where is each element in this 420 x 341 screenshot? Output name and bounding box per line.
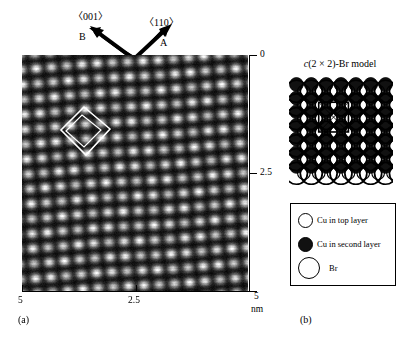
stm-lattice-canvas (22, 55, 248, 291)
figure-root: 〈001〉 〈110〉 B A 0 2.5 (0, 0, 420, 341)
br-circle-icon (298, 257, 320, 279)
panel-b-model: c(2 × 2)-Br model Cu in top layer Cu in … (260, 0, 420, 341)
x-tick-label-2-5: 2.5 (128, 296, 140, 306)
legend-label-cu-second-layer: Cu in second layer (317, 240, 381, 249)
legend-item-br: Br (291, 255, 397, 281)
x-tick-5 (22, 285, 23, 292)
y-tick-2-5 (250, 173, 257, 174)
y-tick-label-0: 5 (254, 292, 259, 302)
panel-b-caption: (b) (300, 315, 312, 325)
legend-item-cu-second-layer: Cu in second layer (291, 231, 397, 257)
legend-item-cu-top-layer: Cu in top layer (291, 207, 397, 233)
stm-topograph (22, 55, 248, 291)
y-tick-5 (250, 55, 257, 56)
cu-second-layer-circle-icon (298, 237, 313, 252)
x-tick-label-5: 5 (18, 296, 23, 306)
panel-a-stm-image: 〈001〉 〈110〉 B A 0 2.5 (0, 0, 260, 341)
c2x2-br-structure-diagram (289, 77, 393, 193)
cu-top-layer-circle-icon (298, 213, 313, 228)
model-title-rest: (2 × 2)-Br model (308, 58, 376, 69)
legend-label-cu-top-layer: Cu in top layer (317, 216, 368, 225)
legend-label-br: Br (329, 264, 338, 273)
panel-a-caption: (a) (18, 315, 29, 325)
model-legend: Cu in top layer Cu in second layer Br (290, 203, 396, 286)
x-tick-2-5 (136, 285, 137, 292)
model-title: c(2 × 2)-Br model (260, 58, 420, 69)
